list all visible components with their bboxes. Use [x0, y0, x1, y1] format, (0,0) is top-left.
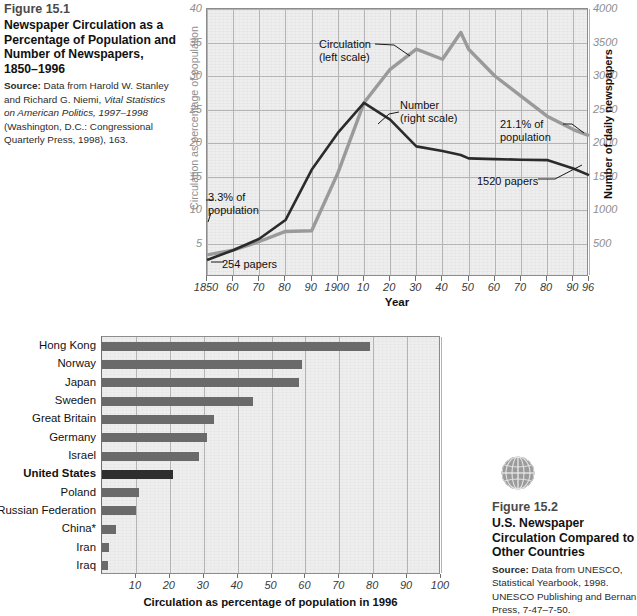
x-tick-label: 90: [305, 281, 317, 293]
annotation-start-pct-line2: population: [208, 204, 259, 217]
category-label: Poland: [61, 486, 96, 498]
globe-icon: [497, 452, 539, 494]
figure-1-source-part2: (Washington, D.C.: Congressional Quarter…: [4, 121, 153, 145]
x-tick-label-2: 50: [264, 579, 276, 591]
figure-1-number: Figure 15.1: [4, 2, 176, 17]
figure-2-number: Figure 15.2: [492, 500, 637, 515]
x-tick-label: 1850: [194, 281, 218, 293]
x-tick-label: 80: [540, 281, 552, 293]
figure-2-chart: Hong KongNorwayJapanSwedenGreat BritainG…: [0, 332, 460, 610]
annotation-start-pct-line1: 3.3% of: [208, 191, 259, 204]
x-tick-label-2: 90: [400, 579, 412, 591]
x-tick-label: 60: [226, 281, 238, 293]
grid-line-vertical-2: [441, 337, 442, 573]
x-tick-label: 20: [383, 281, 395, 293]
category-label: Hong Kong: [39, 339, 96, 351]
x-tick-2: [135, 574, 136, 578]
x-axis-title: Year: [206, 296, 588, 308]
x-axis-labels-2: 102030405060708090100: [101, 336, 440, 574]
x-tick-label-2: 60: [298, 579, 310, 591]
x-tick-2: [271, 574, 272, 578]
annotation-circulation-line1: Circulation: [319, 38, 371, 51]
x-tick-label: 90: [566, 281, 578, 293]
annotation-circulation: Circulation (left scale): [319, 38, 371, 63]
category-label: China*: [62, 522, 96, 534]
figure-1-source: Source: Data from Harold W. Stanley and …: [4, 79, 176, 146]
y2-axis-title: Number of daily newspapers: [602, 24, 614, 224]
figure-2-source: Source: Data from UNESCO, Statistical Ye…: [492, 563, 637, 616]
x-tick-2: [169, 574, 170, 578]
figure-2-caption: Figure 15.2 U.S. Newspaper Circulation C…: [492, 500, 637, 616]
category-label: Sweden: [55, 394, 96, 406]
x-tick-2: [237, 574, 238, 578]
x-tick-label-2: 30: [197, 579, 209, 591]
x-tick-label-2: 20: [163, 579, 175, 591]
category-label: United States: [23, 467, 96, 479]
annotation-1520-papers: 1520 papers: [477, 175, 538, 188]
x-tick-label-2: 70: [332, 579, 344, 591]
annotation-end-pct-line2: population: [500, 131, 551, 144]
x-tick-label: 30: [409, 281, 421, 293]
y2-tick-label: 4000: [593, 2, 617, 14]
y-tick-label: 5: [196, 237, 202, 249]
annotation-end-pct-line1: 21.1% of: [500, 118, 551, 131]
x-tick-label: 80: [278, 281, 290, 293]
x-tick-2: [338, 574, 339, 578]
x-tick-label: 70: [514, 281, 526, 293]
category-label: Iraq: [76, 559, 96, 571]
x-axis-title-2: Circulation as percentage of population …: [101, 596, 440, 608]
annotation-circulation-line2: (left scale): [319, 51, 371, 64]
category-label: Germany: [49, 431, 96, 443]
x-tick-2: [406, 574, 407, 578]
grid-line-vertical: [589, 9, 590, 275]
annotation-number-line1: Number: [400, 99, 457, 112]
x-tick-2: [203, 574, 204, 578]
figure-2-source-label: Source:: [492, 564, 529, 575]
annotation-start-pct: 3.3% of population: [208, 191, 259, 216]
y2-tick-label: 500: [593, 237, 611, 249]
x-tick-label: 96: [582, 281, 594, 293]
x-tick-label-2: 10: [129, 579, 141, 591]
category-label: Norway: [57, 357, 96, 369]
x-tick-label: 40: [435, 281, 447, 293]
x-tick-label: 50: [462, 281, 474, 293]
figure-1-source-label: Source:: [4, 80, 41, 91]
category-label: Japan: [65, 376, 96, 388]
annotation-end-pct: 21.1% of population: [500, 118, 551, 143]
x-tick-2: [440, 574, 441, 578]
x-tick-label: 10: [357, 281, 369, 293]
category-label: Iran: [76, 541, 96, 553]
x-tick-label: 1900: [325, 281, 349, 293]
category-label: Israel: [68, 449, 96, 461]
x-tick-label-2: 40: [230, 579, 242, 591]
annotation-number-line2: (right scale): [400, 112, 457, 125]
x-tick-2: [304, 574, 305, 578]
category-label: Russian Federation: [0, 504, 96, 516]
x-tick-label-2: 100: [431, 579, 449, 591]
figure-1-caption: Figure 15.1 Newspaper Circulation as a P…: [4, 2, 176, 146]
category-label: Great Britain: [32, 412, 96, 424]
x-tick-label-2: 80: [366, 579, 378, 591]
annotation-number: Number (right scale): [400, 99, 457, 124]
annotation-254-papers: 254 papers: [222, 258, 277, 271]
figure-1-title: Newspaper Circulation as a Percentage of…: [4, 18, 176, 76]
x-tick-label: 70: [252, 281, 264, 293]
y-axis-title: Circulation as percentage of population: [188, 18, 200, 218]
x-tick-label: 60: [488, 281, 500, 293]
figure-2-title: U.S. Newspaper Circulation Compared to O…: [492, 516, 637, 560]
figure-1-chart: 510152025303540 500100015002000250030003…: [178, 0, 637, 330]
x-tick-2: [372, 574, 373, 578]
y-tick-label: 40: [190, 2, 202, 14]
